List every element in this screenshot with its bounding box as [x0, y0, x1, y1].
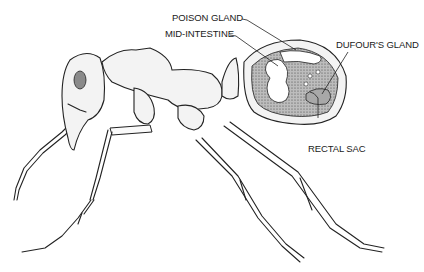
- label-dufours-gland: DUFOUR'S GLAND: [336, 39, 419, 50]
- label-rectal-sac: RECTAL SAC: [308, 143, 366, 154]
- thorax: [102, 48, 222, 130]
- ant-anatomy-diagram: POISON GLAND MID-INTESTINE DUFOUR'S GLAN…: [0, 0, 424, 272]
- head: [62, 53, 105, 150]
- petiole: [222, 58, 239, 99]
- label-poison-gland: POISON GLAND: [172, 12, 243, 23]
- front-leg: [22, 125, 152, 252]
- middle-leg: [196, 138, 304, 262]
- hind-leg: [224, 122, 384, 252]
- compound-eye: [74, 71, 86, 89]
- label-mid-intestine: MID-INTESTINE: [165, 28, 234, 39]
